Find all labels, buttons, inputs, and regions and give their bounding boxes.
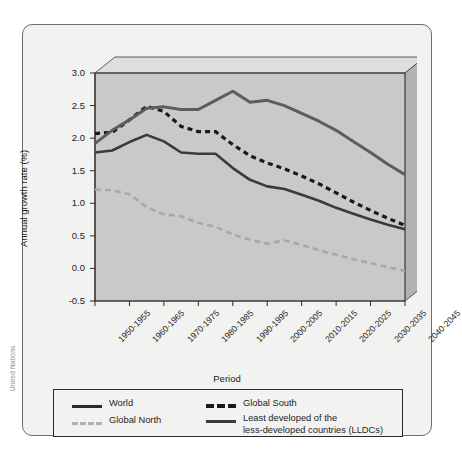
legend-item-global-north: Global North [72,415,161,428]
legend-swatch-lldc [206,414,236,426]
y-tick-label: 0.0 [51,262,85,273]
legend-label-lldc-line2: less-developed countries (LLDCs) [243,425,383,435]
y-tick-label: 2.5 [51,100,85,111]
x-axis-title: Period [23,373,431,384]
legend-item-global-south: Global South [206,398,297,411]
legend-swatch-global-north [72,416,102,428]
y-axis-title: Annual growth rate (%) [18,150,29,247]
legend-item-lldc: Least developed of theless-developed cou… [206,413,383,436]
x-tick-label: 2040-2045 [426,308,462,344]
chart-legend: World Global North Global South Least de… [53,389,403,437]
y-tick-label: 3.0 [51,67,85,78]
legend-label-lldc: Least developed of theless-developed cou… [243,413,383,436]
y-tick-label: 1.5 [51,165,85,176]
legend-label-global-north: Global North [109,415,161,427]
y-tick-label: 1.0 [51,197,85,208]
y-tick-label: -0.5 [51,295,85,306]
y-tick-label: 0.5 [51,230,85,241]
legend-swatch-world [72,399,102,411]
plot-area [75,39,417,321]
legend-swatch-global-south [206,399,236,411]
legend-item-world: World [72,398,133,411]
legend-label-global-south: Global South [243,398,297,410]
legend-label-world: World [109,398,133,410]
source-credit: United Nations [9,331,16,391]
legend-label-lldc-line1: Least developed of the [243,413,337,423]
y-tick-label: 2.0 [51,132,85,143]
line-chart [75,39,417,321]
chart-card: United Nations Annual growth rate (%) Pe… [22,24,432,436]
